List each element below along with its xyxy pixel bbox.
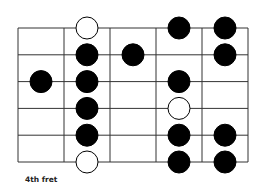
note-dot xyxy=(214,124,236,146)
note-dot xyxy=(168,17,190,39)
note-dot xyxy=(122,44,144,66)
note-dot xyxy=(76,44,98,66)
note-dot xyxy=(168,151,190,173)
fret-position-label: 4th fret xyxy=(25,175,57,184)
note-dot xyxy=(30,71,52,93)
note-dot xyxy=(214,17,236,39)
note-dot xyxy=(76,71,98,93)
note-dot xyxy=(214,44,236,66)
note-dot xyxy=(76,124,98,146)
fretboard-diagram xyxy=(0,0,261,193)
root-note-dot xyxy=(76,151,98,173)
root-note-dot xyxy=(168,97,190,119)
root-note-dot xyxy=(76,17,98,39)
note-dot xyxy=(168,124,190,146)
note-dot xyxy=(76,97,98,119)
note-dot xyxy=(168,71,190,93)
note-dot xyxy=(214,151,236,173)
